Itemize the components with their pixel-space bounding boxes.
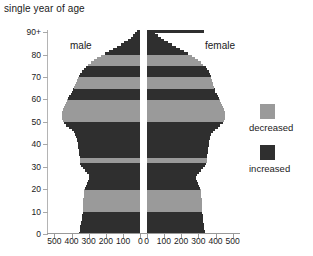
pyramid-bar (85, 187, 140, 190)
x-tick-label: 100 (116, 236, 130, 246)
pyramid-bar (147, 120, 224, 123)
x-tick-label: 300 (82, 236, 96, 246)
pyramid-bar (87, 182, 141, 185)
pyramid-bar (80, 156, 141, 159)
y-tick-label: 40 (32, 139, 41, 149)
pyramid-bar (147, 207, 202, 210)
pyramid-bar (147, 86, 214, 89)
pyramid-bar (72, 129, 140, 132)
pyramid-bar (68, 97, 140, 100)
pyramid-bar (63, 108, 141, 111)
y-tick (43, 212, 48, 213)
pyramid-bar (62, 115, 141, 118)
x-tick-label: 300 (191, 236, 205, 246)
pyramid-bar (147, 138, 210, 141)
pyramid-bar (147, 200, 202, 203)
pyramid-bar (62, 111, 140, 114)
x-tick-label: 200 (174, 236, 188, 246)
pyramid-bar (147, 82, 213, 85)
pyramid-bar (147, 91, 216, 94)
pyramid-bar (78, 144, 140, 147)
pyramid-bar (89, 176, 140, 179)
pyramid-bar (79, 149, 141, 152)
pyramid-bar (147, 75, 211, 78)
pyramid-bar (147, 153, 208, 156)
pyramid-bar (66, 124, 140, 127)
pyramid-bar (147, 97, 219, 100)
x-tick-label: 400 (208, 236, 222, 246)
pyramid-bar (81, 165, 140, 168)
pyramid-bar (82, 70, 140, 73)
plot-area: 0102030405060708090+ 5004003002001000010… (47, 30, 240, 234)
pyramid-bar (83, 207, 141, 210)
pyramid-bar (147, 102, 221, 105)
legend-swatch-increased (260, 145, 275, 160)
y-axis-line (47, 30, 48, 234)
pyramid-bar (79, 153, 140, 156)
pyramid-bar (147, 162, 207, 165)
pyramid-bar (82, 214, 140, 217)
pyramid-bar (147, 79, 212, 82)
pyramid-bar (86, 66, 141, 69)
pyramid-bar (147, 122, 223, 125)
pyramid-bar (85, 169, 140, 172)
pyramid-bar (75, 133, 140, 136)
pyramid-bar (65, 104, 141, 107)
y-tick (43, 32, 48, 33)
x-tick-label: 0 (144, 236, 149, 246)
pyramid-bar (62, 117, 140, 120)
pyramid-bar (147, 106, 223, 109)
pyramid-bar (147, 48, 180, 51)
pyramid-bar (147, 198, 202, 201)
x-tick-label: 500 (47, 236, 61, 246)
y-tick-label: 50 (32, 117, 41, 127)
pyramid-bar (147, 52, 188, 55)
pyramid-bar (77, 140, 140, 143)
pyramid-bar (147, 156, 207, 159)
pyramid-bar (80, 230, 141, 233)
pyramid-bar (147, 84, 214, 87)
pyramid-bar (83, 212, 141, 215)
pyramid-bar (74, 86, 140, 89)
pyramid-bar (63, 120, 141, 123)
pyramid-bar (91, 61, 141, 64)
pyramid-bar (147, 32, 155, 35)
pyramid-bar (147, 169, 202, 172)
legend-item-increased: increased (249, 145, 311, 174)
pyramid-bar (147, 196, 202, 199)
pyramid-bar (147, 171, 199, 174)
pyramid-bar (147, 70, 209, 73)
pyramid-bar (84, 196, 141, 199)
pyramid-bar (147, 144, 209, 147)
pyramid-bar (84, 194, 141, 197)
legend-label-decreased: decreased (249, 122, 311, 133)
pyramid-bar (83, 167, 140, 170)
y-tick-label: 20 (32, 184, 41, 194)
y-tick (43, 99, 48, 100)
pyramid-bar (147, 191, 201, 194)
pyramid-bar (147, 41, 168, 44)
x-tick-label: 400 (64, 236, 78, 246)
pyramid-bar (117, 46, 140, 49)
y-tick (43, 144, 48, 145)
pyramid-bar (88, 180, 141, 183)
pyramid-bar (80, 162, 140, 165)
pyramid-bar (147, 95, 218, 98)
pyramid-bar (147, 140, 210, 143)
x-tick-label: 100 (157, 236, 171, 246)
legend: decreased increased (249, 104, 311, 186)
legend-label-increased: increased (249, 163, 311, 174)
pyramid-bar (147, 151, 208, 154)
pyramid-bar (84, 191, 140, 194)
pyramid-bar (83, 200, 140, 203)
pyramid-bar (147, 182, 199, 185)
pyramid-bar (78, 77, 140, 80)
pyramid-bar (147, 115, 225, 118)
pyramid-bar (97, 57, 140, 60)
pyramid-bar (147, 230, 205, 233)
y-tick-label: 60 (32, 94, 41, 104)
pyramid-bar (147, 165, 205, 168)
pyramid-bar (147, 216, 203, 219)
pyramid-bar (80, 73, 140, 76)
pyramid-bar (84, 189, 140, 192)
